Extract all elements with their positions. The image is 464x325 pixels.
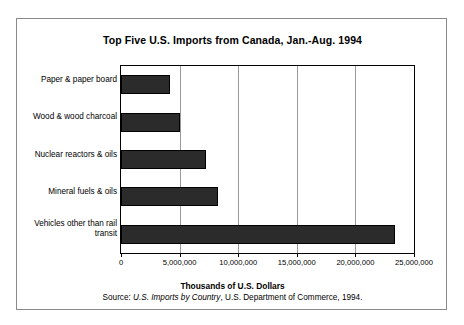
chart-title: Top Five U.S. Imports from Canada, Jan.-… <box>17 34 448 46</box>
x-tick-mark <box>121 253 122 257</box>
category-label: Vehicles other than rail transit <box>31 219 117 239</box>
x-tick-mark <box>297 253 298 257</box>
source-suffix: , U.S. Department of Commerce, 1994. <box>220 293 362 302</box>
bar <box>121 75 170 94</box>
category-label: Wood & wood charcoal <box>0 112 117 122</box>
category-label: Nuclear reactors & oils <box>0 150 117 160</box>
plot-area: 05,000,00010,000,00015,000,00020,000,000… <box>120 65 415 254</box>
x-tick-label: 10,000,000 <box>219 258 257 267</box>
source-note: Source: U.S. Imports by Country, U.S. De… <box>17 293 448 302</box>
x-axis-title: Thousands of U.S. Dollars <box>17 281 448 291</box>
x-tick-label: 5,000,000 <box>163 258 197 267</box>
plot-inner: 05,000,00010,000,00015,000,00020,000,000… <box>121 66 414 253</box>
category-label: Paper & paper board <box>0 75 117 85</box>
bar <box>121 225 395 244</box>
bar <box>121 187 218 206</box>
x-tick-label: 25,000,000 <box>395 258 433 267</box>
x-tick-label: 20,000,000 <box>336 258 374 267</box>
figure-frame: Top Five U.S. Imports from Canada, Jan.-… <box>16 18 447 310</box>
x-tick-mark <box>414 253 415 257</box>
x-tick-mark <box>238 253 239 257</box>
x-tick-mark <box>355 253 356 257</box>
source-prefix: Source: <box>103 293 134 302</box>
category-label: Mineral fuels & oils <box>0 187 117 197</box>
source-publication-title: U.S. Imports by Country <box>133 293 220 302</box>
bar <box>121 113 180 132</box>
x-tick-label: 0 <box>119 258 123 267</box>
x-tick-label: 15,000,000 <box>278 258 316 267</box>
bar <box>121 150 206 169</box>
x-tick-mark <box>180 253 181 257</box>
